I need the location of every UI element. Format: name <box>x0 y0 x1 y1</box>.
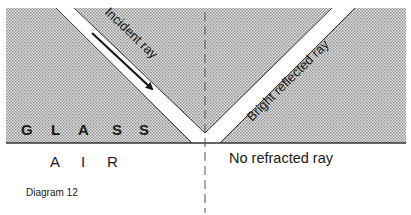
refracted-ray-label: No refracted ray <box>229 150 334 166</box>
svg-text:A: A <box>50 153 60 170</box>
svg-text:A: A <box>78 121 89 138</box>
air-medium-label: A I R <box>50 153 118 170</box>
total-internal-reflection-diagram: Incident ray Bright reflected ray G L A … <box>0 0 411 215</box>
svg-text:S: S <box>139 121 149 138</box>
svg-text:I: I <box>81 153 85 170</box>
svg-text:R: R <box>107 153 118 170</box>
svg-text:L: L <box>51 121 60 138</box>
svg-text:G: G <box>21 121 33 138</box>
svg-text:S: S <box>112 121 122 138</box>
diagram-caption: Diagram 12 <box>26 187 78 198</box>
glass-region <box>6 8 406 143</box>
